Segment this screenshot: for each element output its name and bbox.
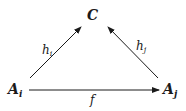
commutative-diagram: C Ai Aj hi hj f (0, 0, 186, 111)
label-h-i: hi (42, 43, 53, 58)
arrow-h-j (108, 27, 158, 78)
node-c: C (87, 7, 98, 23)
label-h-j: hj (136, 39, 147, 54)
label-f: f (89, 93, 97, 107)
node-a-i: Ai (6, 81, 23, 99)
diagram-svg: C Ai Aj hi hj f (0, 0, 186, 111)
node-a-j: Aj (161, 81, 178, 99)
arrow-h-i (30, 27, 81, 78)
